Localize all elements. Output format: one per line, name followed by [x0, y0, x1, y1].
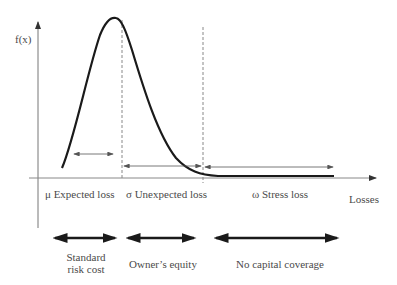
loss-distribution-diagram: [0, 0, 397, 285]
unexpected-loss-label: σ Unexpected loss: [126, 188, 207, 200]
expected-loss-label: μ Expected loss: [45, 188, 114, 200]
no-capital-coverage-label: No capital coverage: [236, 258, 324, 270]
x-axis-label: Losses: [349, 193, 379, 205]
standard-risk-cost-line1: Standard: [55, 251, 117, 263]
stress-loss-label: ω Stress loss: [252, 188, 308, 200]
owners-equity-label: Owner’s equity: [129, 258, 197, 270]
standard-risk-cost-label: Standard risk cost: [55, 251, 117, 275]
standard-risk-cost-line2: risk cost: [55, 263, 117, 275]
density-curve: [62, 18, 334, 176]
y-axis-label: f(x): [15, 33, 32, 45]
